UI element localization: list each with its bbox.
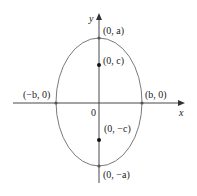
upper-focus-point [97,63,101,67]
bottom-vertex-label: (0, −a) [103,169,130,181]
right-vertex-point [140,101,143,104]
origin-label: 0 [91,107,96,118]
bottom-vertex-point [97,164,100,167]
left-vertex-label: (−b, 0) [23,89,50,101]
x-axis-label: x [178,107,184,118]
lower-focus-label: (0, −c) [104,123,131,135]
x-axis-arrow-icon [178,100,185,106]
y-axis-label: y [88,13,94,24]
y-axis-arrow-icon [96,13,102,20]
right-vertex-label: (b, 0) [145,89,167,101]
ellipse-diagram: y x 0 (0, a) (0, c) (−b, 0) (b, 0) (0, −… [0,0,197,196]
left-vertex-point [54,101,57,104]
top-vertex-label: (0, a) [103,25,124,37]
top-vertex-point [97,36,100,39]
upper-focus-label: (0, c) [103,55,124,67]
lower-focus-point [97,138,101,142]
